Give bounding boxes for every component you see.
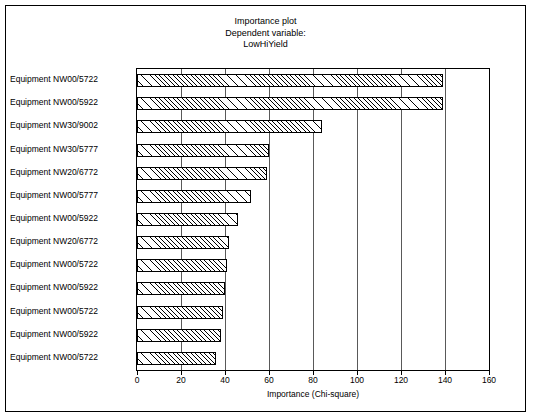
y-axis-label: Equipment NW00/5722 <box>10 301 134 322</box>
tick-label: 100 <box>350 375 364 385</box>
tick-label: 40 <box>220 375 229 385</box>
bar-row <box>137 209 489 230</box>
bar-row <box>137 140 489 161</box>
y-axis-label: Equipment NW30/9002 <box>10 115 134 136</box>
chart-subtitle: Dependent variable: <box>6 28 525 40</box>
chart-title-block: Importance plot Dependent variable: LowH… <box>6 16 525 51</box>
bar-row <box>137 93 489 114</box>
x-axis-title: Importance (Chi-square) <box>136 389 490 399</box>
y-axis-category-labels: Equipment NW00/5722Equipment NW00/5922Eq… <box>6 68 134 371</box>
tick-label: 20 <box>176 375 185 385</box>
x-axis-ticks: 020406080100120140160 <box>136 371 490 387</box>
y-axis-label: Equipment NW00/5722 <box>10 254 134 275</box>
bar-row <box>137 163 489 184</box>
y-axis-label: Equipment NW00/5722 <box>10 347 134 368</box>
bar-row <box>137 232 489 253</box>
bar-row <box>137 70 489 91</box>
bar-row <box>137 255 489 276</box>
y-axis-label: Equipment NW00/5922 <box>10 324 134 345</box>
bar <box>137 236 229 249</box>
chart-dependent-variable: LowHiYield <box>6 39 525 51</box>
plot-area <box>136 68 490 371</box>
bar-row <box>137 186 489 207</box>
bar <box>137 97 443 110</box>
bar <box>137 259 227 272</box>
bar-row <box>137 116 489 137</box>
bar <box>137 213 238 226</box>
chart-title: Importance plot <box>6 16 525 28</box>
bar-row <box>137 302 489 323</box>
tick-label: 160 <box>482 375 496 385</box>
y-axis-label: Equipment NW00/5922 <box>10 92 134 113</box>
tick-label: 60 <box>264 375 273 385</box>
bar <box>137 167 267 180</box>
tick-label: 140 <box>438 375 452 385</box>
y-axis-label: Equipment NW20/6772 <box>10 162 134 183</box>
bar <box>137 190 251 203</box>
y-axis-label: Equipment NW00/5922 <box>10 277 134 298</box>
bar-row <box>137 278 489 299</box>
tick-label: 0 <box>135 375 140 385</box>
y-axis-label: Equipment NW20/6772 <box>10 231 134 252</box>
bar <box>137 144 269 157</box>
tick-label: 120 <box>394 375 408 385</box>
y-axis-label: Equipment NW00/5722 <box>10 69 134 90</box>
chart-frame: Importance plot Dependent variable: LowH… <box>5 5 526 412</box>
bar-row <box>137 348 489 369</box>
bar <box>137 352 216 365</box>
tick-label: 80 <box>308 375 317 385</box>
bar <box>137 74 443 87</box>
bar-row <box>137 325 489 346</box>
y-axis-label: Equipment NW00/5922 <box>10 208 134 229</box>
y-axis-label: Equipment NW00/5777 <box>10 185 134 206</box>
bar <box>137 282 225 295</box>
bar <box>137 329 221 342</box>
y-axis-label: Equipment NW30/5777 <box>10 139 134 160</box>
bar <box>137 306 223 319</box>
bar <box>137 120 322 133</box>
